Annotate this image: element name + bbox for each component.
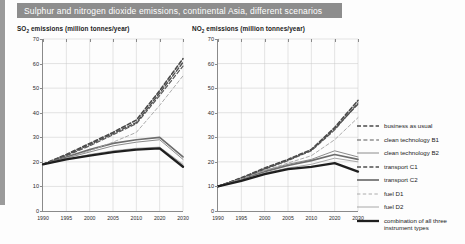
y-axis-tick-mark [40,137,43,138]
legend-item: fuel D1 [357,190,463,198]
x-axis-tick-mark [113,39,114,42]
legend-item-label: transport C1 [384,163,418,171]
legend-item-label: clean technology B1 [384,136,439,144]
legend-item-label: combination of all three instrument type… [384,217,447,232]
x-axis-tick-mark [265,39,266,42]
x-axis-tick-mark [136,39,137,42]
x-axis-tick-mark [43,39,44,42]
y-axis-tick-label: 70 [33,36,39,42]
nox-subtitle-prefix: NO [192,25,202,32]
nox-plot-area: 0102030405060701990199520002005201020202… [217,39,358,212]
y-axis-tick-label: 60 [33,61,39,67]
x-axis-tick-mark [358,39,359,42]
legend-item-label: business as usual [384,122,432,130]
x-axis-tick-mark [160,39,161,42]
x-axis-tick-label: 2000 [84,215,96,221]
y-axis-tick-label: 40 [208,110,214,116]
legend-swatch-icon [357,149,379,157]
y-axis-tick-label: 20 [33,159,39,165]
legend-item: combination of all three instrument type… [357,217,463,232]
x-axis-tick-label: 1995 [61,215,73,221]
x-axis-tick-mark [241,39,242,42]
left-edge-bar-highlight [5,0,7,205]
figure-root: Sulphur and nitrogen dioxide emissions, … [0,0,465,244]
y-axis-tick-label: 20 [208,159,214,165]
x-axis-tick-label: 2020 [154,215,166,221]
legend-swatch-icon [357,163,379,171]
y-axis-tick-label: 30 [33,134,39,140]
x-axis-tick-label: 2020 [329,215,341,221]
legend-item: clean technology B1 [357,136,463,144]
x-axis-tick-label: 2010 [306,215,318,221]
legend-item: business as usual [357,122,463,130]
legend-swatch-icon [357,176,379,184]
legend-swatch-icon [357,217,379,225]
y-axis-tick-label: 40 [33,110,39,116]
legend-swatch-icon [357,190,379,198]
legend-item: fuel D2 [357,203,463,211]
y-axis-tick-label: 60 [208,61,214,67]
y-axis-tick-mark [215,137,218,138]
y-axis-tick-label: 0 [36,208,39,214]
x-axis-tick-label: 2000 [259,215,271,221]
y-axis-tick-label: 50 [33,85,39,91]
so2-chart-panel: 0102030405060701990199520002005201020202… [17,36,185,218]
figure-title-banner: Sulphur and nitrogen dioxide emissions, … [17,3,342,18]
y-axis-tick-mark [40,88,43,89]
x-axis-tick-mark [90,39,91,42]
y-axis-tick-mark [40,64,43,65]
x-axis-tick-mark [66,39,67,42]
x-axis-tick-mark [288,39,289,42]
x-axis-tick-mark [311,39,312,42]
x-axis-tick-label: 1990 [212,215,224,221]
plot-nox-svg [218,39,358,211]
legend-item: transport C1 [357,163,463,171]
legend-item-label: fuel D2 [384,203,403,211]
y-axis-tick-mark [215,162,218,163]
legend-swatch-icon [357,203,379,211]
nox-panel-subtitle: NO2 emissions (million tonnes/year) [192,25,305,34]
x-axis-tick-mark [183,39,184,42]
nox-subtitle-rest: emissions (million tonnes/year) [204,25,305,32]
so2-subtitle-rest: emissions (million tonnes/year) [29,25,130,32]
legend-item-label: transport C2 [384,176,418,184]
y-axis-tick-mark [40,113,43,114]
legend-item: transport C2 [357,176,463,184]
plot-so2-svg [43,39,183,211]
legend-item-label: clean technology B2 [384,149,439,157]
y-axis-tick-label: 50 [208,85,214,91]
y-axis-tick-mark [40,186,43,187]
y-axis-tick-mark [215,186,218,187]
y-axis-tick-label: 0 [211,208,214,214]
y-axis-tick-mark [215,211,218,212]
so2-plot-area: 0102030405060701990199520002005201020202… [42,39,183,212]
x-axis-tick-label: 1995 [236,215,248,221]
x-axis-tick-mark [218,39,219,42]
legend-item: clean technology B2 [357,149,463,157]
so2-panel-subtitle: SO2 emissions (million tonnes/year) [17,25,130,34]
x-axis-tick-label: 2005 [282,215,294,221]
chart-legend: business as usualclean technology B1clea… [357,122,463,237]
y-axis-tick-label: 10 [208,183,214,189]
x-axis-tick-mark [335,39,336,42]
figure-title: Sulphur and nitrogen dioxide emissions, … [24,6,322,16]
y-axis-tick-mark [215,88,218,89]
legend-swatch-icon [357,122,379,130]
legend-item-label: fuel D1 [384,190,403,198]
y-axis-tick-mark [215,113,218,114]
y-axis-tick-mark [215,64,218,65]
y-axis-tick-mark [40,211,43,212]
y-axis-tick-label: 10 [33,183,39,189]
nox-chart-panel: 0102030405060701990199520002005201020202… [192,36,360,218]
legend-swatch-icon [357,136,379,144]
x-axis-tick-label: 2030 [177,215,189,221]
x-axis-tick-label: 1990 [37,215,49,221]
x-axis-tick-label: 2010 [131,215,143,221]
y-axis-tick-mark [40,162,43,163]
y-axis-tick-label: 70 [208,36,214,42]
x-axis-tick-label: 2005 [107,215,119,221]
y-axis-tick-label: 30 [208,134,214,140]
